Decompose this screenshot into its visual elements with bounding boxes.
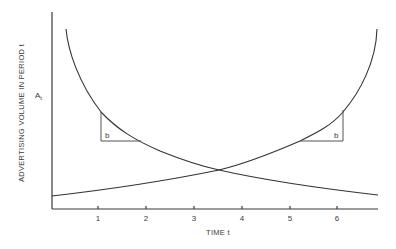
x-tick-label-1: 1	[96, 214, 101, 223]
y-marker-label: At	[35, 91, 42, 101]
left-b-label: b	[105, 131, 110, 140]
right-b-label: b	[334, 131, 339, 140]
x-tick-label-3: 3	[192, 214, 197, 223]
decreasing-curve	[66, 29, 378, 195]
x-tick-label-6: 6	[335, 214, 340, 223]
x-tick-label-4: 4	[240, 214, 245, 223]
x-tick-label-2: 2	[144, 214, 149, 223]
x-axis-label: TIME t	[206, 228, 230, 237]
chart: 1 2 3 4 5 6 TIME t ADVERTISING VOLUME IN…	[0, 0, 396, 249]
y-axis-label: ADVERTISING VOLUME IN PERIOD t	[17, 43, 26, 182]
x-tick-label-5: 5	[288, 214, 293, 223]
